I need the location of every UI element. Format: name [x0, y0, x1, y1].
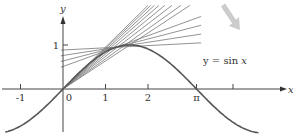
x-tick-label: -1 [16, 92, 26, 103]
secant-lines [61, 5, 201, 87]
secant-line [65, 5, 165, 87]
x-tick-label: 0 [66, 92, 72, 103]
secant-line [65, 5, 159, 87]
x-axis-arrowhead-icon [280, 87, 287, 92]
tangent-line [61, 25, 201, 61]
arrow-shaft [223, 5, 235, 23]
curve-label-prefix: y = sin [202, 55, 241, 66]
rotation-arrow [223, 5, 240, 30]
x-tick-label: 2 [145, 92, 151, 103]
x-axis-label: x [288, 84, 293, 95]
axes: x y [2, 3, 293, 132]
y-tick-label: 1 [53, 40, 59, 51]
y-axis-arrowhead-icon [61, 16, 66, 24]
x-tick-label: 1 [102, 92, 108, 103]
curve-label-var: x [241, 55, 247, 66]
y-axis-label: y [59, 3, 66, 14]
sine-curve-figure: x y -1012π1 y = sin x [0, 0, 293, 139]
curve-label: y = sin x [202, 55, 247, 66]
x-tick-label: π [193, 92, 200, 103]
